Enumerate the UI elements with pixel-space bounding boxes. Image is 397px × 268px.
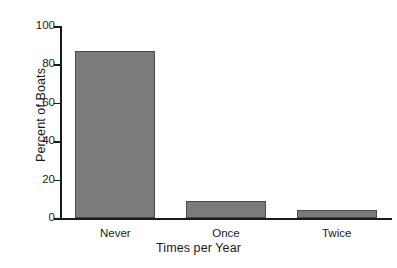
x-axis-tick-label: Never <box>60 227 171 239</box>
plot-area: 020406080100 NeverOnceTwice <box>60 26 392 219</box>
x-axis-title: Times per Year <box>0 241 397 255</box>
bar <box>297 210 377 218</box>
y-axis-tick-label: 20 <box>42 174 55 186</box>
y-axis-tick-label: 80 <box>42 59 55 71</box>
y-axis-tick-label: 40 <box>42 135 55 147</box>
y-axis-tick-label: 60 <box>42 97 55 109</box>
x-axis-tick-label: Twice <box>281 227 392 239</box>
y-axis-line <box>60 26 62 219</box>
x-axis-line <box>60 218 392 220</box>
y-axis-tick-label: 0 <box>49 212 55 224</box>
x-axis-tick-label: Once <box>171 227 282 239</box>
y-axis-tick-label: 100 <box>36 20 55 32</box>
bar <box>75 51 155 218</box>
bar-chart: Percent of Boats 020406080100 NeverOnceT… <box>0 0 397 268</box>
bar <box>186 201 266 218</box>
